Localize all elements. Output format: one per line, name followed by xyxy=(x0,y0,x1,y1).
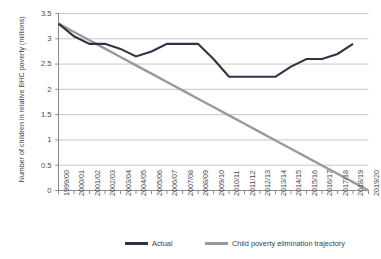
series-line-actual xyxy=(59,24,354,77)
x-axis-tick-label: 1999/00 xyxy=(62,169,71,195)
x-axis-tick-label: 2018/19 xyxy=(356,169,365,195)
x-axis-tick-label: 2002/03 xyxy=(108,169,117,195)
x-axis-tick-label: 2004/05 xyxy=(139,169,148,195)
x-axis-tick-label: 2013/14 xyxy=(279,169,288,195)
x-axis-tick-label: 2011/12 xyxy=(248,170,257,196)
x-axis-tick-label: 2000/01 xyxy=(77,169,86,195)
y-axis-tick-label: 1 xyxy=(26,135,52,144)
x-axis-tick-label: 2007/08 xyxy=(186,169,195,195)
x-axis-tick-label: 2017/18 xyxy=(341,169,350,195)
legend-label: Child poverty elimination trajectory xyxy=(232,239,345,248)
x-axis-tick-label: 2012/13 xyxy=(263,169,272,195)
y-axis-tick-label: 3 xyxy=(26,34,52,43)
legend-entry: Child poverty elimination trajectory xyxy=(205,239,345,248)
x-axis-tick-label: 2005/06 xyxy=(155,169,164,195)
chart-legend: ActualChild poverty elimination trajecto… xyxy=(0,236,377,250)
x-axis-tick-label: 2016/17 xyxy=(325,169,334,195)
legend-swatch xyxy=(205,242,228,245)
x-axis-tick-label: 2015/16 xyxy=(310,169,319,195)
x-axis-tick-label: 2003/04 xyxy=(124,169,133,195)
y-axis-tick-label: 1.5 xyxy=(26,110,52,119)
y-axis-tick-label: 2 xyxy=(26,85,52,94)
x-axis-tick-label: 2010/11 xyxy=(232,170,241,196)
legend-entry: Actual xyxy=(125,239,173,248)
x-axis-tick-label: 2009/10 xyxy=(217,169,226,195)
x-axis-tick-label: 2019/20 xyxy=(372,169,381,195)
legend-label: Actual xyxy=(152,239,173,248)
x-axis-tick-label: 2008/09 xyxy=(201,169,210,195)
y-axis-tick-label: 3.5 xyxy=(26,9,52,18)
x-axis-tick-label: 2006/07 xyxy=(170,169,179,195)
x-axis-tick-label: 2001/02 xyxy=(93,169,102,195)
y-axis-tick-label: 2.5 xyxy=(26,59,52,68)
legend-swatch xyxy=(125,242,148,246)
x-axis-tick-label: 2014/15 xyxy=(294,169,303,195)
y-axis-tick-label: 0.5 xyxy=(26,161,52,170)
y-axis-tick-label: 0 xyxy=(26,186,52,195)
